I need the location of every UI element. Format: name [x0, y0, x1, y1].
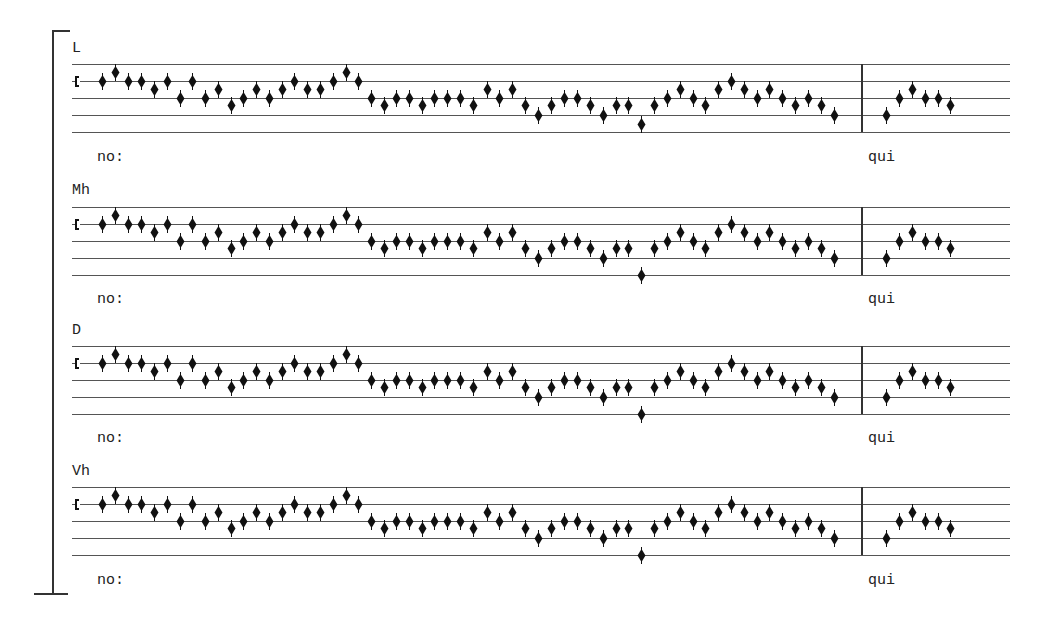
barline: [861, 64, 863, 132]
neume-diamond-icon: [495, 372, 504, 389]
voice-label: L: [72, 40, 81, 57]
neume-diamond-icon: [456, 513, 465, 530]
neume-diamond-icon: [163, 73, 172, 90]
neume-diamond-icon: [265, 233, 274, 250]
neume-diamond-icon: [727, 496, 736, 513]
neume-diamond-icon: [934, 513, 943, 530]
neume-diamond-icon: [547, 240, 556, 257]
c-clef-icon: [75, 358, 79, 369]
neume-diamond-icon: [946, 240, 955, 257]
neume-diamond-icon: [239, 513, 248, 530]
neume-diamond-icon: [714, 224, 723, 241]
neume-diamond-icon: [701, 97, 710, 114]
neume-diamond-icon: [921, 372, 930, 389]
neume-diamond-icon: [303, 224, 312, 241]
neume-diamond-icon: [214, 504, 223, 521]
staff-line: [72, 380, 1010, 381]
neume-diamond-icon: [727, 73, 736, 90]
neume-diamond-icon: [921, 233, 930, 250]
staff-line: [72, 487, 1010, 488]
neume-diamond-icon: [534, 250, 543, 267]
neume-diamond-icon: [624, 520, 633, 537]
neume-diamond-icon: [676, 224, 685, 241]
neume-diamond-icon: [701, 379, 710, 396]
neume-diamond-icon: [278, 504, 287, 521]
neume-diamond-icon: [316, 224, 325, 241]
neume-diamond-icon: [303, 363, 312, 380]
neume-diamond-icon: [560, 513, 569, 530]
neume-diamond-icon: [882, 107, 891, 124]
neume-diamond-icon: [689, 513, 698, 530]
neume-diamond-icon: [599, 530, 608, 547]
neume-diamond-icon: [290, 216, 299, 233]
neume-diamond-icon: [637, 547, 646, 564]
neume-diamond-icon: [804, 90, 813, 107]
neume-diamond-icon: [586, 97, 595, 114]
neume-diamond-icon: [418, 520, 427, 537]
neume-diamond-icon: [98, 355, 107, 372]
neume-diamond-icon: [201, 233, 210, 250]
neume-diamond-icon: [921, 513, 930, 530]
neume-diamond-icon: [714, 363, 723, 380]
neume-diamond-icon: [265, 513, 274, 530]
neume-diamond-icon: [290, 73, 299, 90]
lyric-syllable: no:: [97, 572, 124, 589]
staff-line: [72, 98, 1010, 99]
neume-diamond-icon: [443, 513, 452, 530]
staff-line: [72, 346, 1010, 347]
neume-diamond-icon: [573, 372, 582, 389]
neume-diamond-icon: [239, 233, 248, 250]
neume-diamond-icon: [830, 530, 839, 547]
neume-diamond-icon: [163, 496, 172, 513]
neume-diamond-icon: [830, 250, 839, 267]
neume-diamond-icon: [201, 90, 210, 107]
neume-diamond-icon: [111, 346, 120, 363]
barline: [861, 346, 863, 414]
neume-diamond-icon: [265, 372, 274, 389]
neume-diamond-icon: [676, 81, 685, 98]
neume-diamond-icon: [495, 513, 504, 530]
neume-diamond-icon: [380, 97, 389, 114]
neume-diamond-icon: [201, 372, 210, 389]
neume-diamond-icon: [946, 97, 955, 114]
neume-diamond-icon: [521, 379, 530, 396]
lyric-syllable: qui: [868, 291, 895, 308]
neume-diamond-icon: [418, 379, 427, 396]
neume-diamond-icon: [278, 363, 287, 380]
neume-diamond-icon: [560, 372, 569, 389]
neume-diamond-icon: [392, 372, 401, 389]
lyric-syllable: no:: [97, 149, 124, 166]
neume-diamond-icon: [534, 389, 543, 406]
neume-diamond-icon: [150, 224, 159, 241]
neume-diamond-icon: [830, 389, 839, 406]
neume-diamond-icon: [137, 216, 146, 233]
neume-diamond-icon: [817, 379, 826, 396]
neume-diamond-icon: [188, 216, 197, 233]
neume-diamond-icon: [342, 487, 351, 504]
voice-label: Mh: [72, 182, 90, 199]
neume-diamond-icon: [265, 90, 274, 107]
lyric-syllable: no:: [97, 291, 124, 308]
neume-diamond-icon: [560, 90, 569, 107]
neume-diamond-icon: [624, 97, 633, 114]
neume-diamond-icon: [405, 513, 414, 530]
neume-diamond-icon: [443, 233, 452, 250]
staff-line: [72, 64, 1010, 65]
neume-diamond-icon: [392, 513, 401, 530]
neume-diamond-icon: [946, 379, 955, 396]
neume-diamond-icon: [573, 233, 582, 250]
neume-diamond-icon: [227, 240, 236, 257]
neume-diamond-icon: [599, 107, 608, 124]
neume-diamond-icon: [804, 372, 813, 389]
barline: [861, 487, 863, 555]
neume-diamond-icon: [895, 372, 904, 389]
staff-line: [72, 132, 1010, 133]
neume-diamond-icon: [791, 97, 800, 114]
neume-diamond-icon: [111, 64, 120, 81]
neume-diamond-icon: [367, 372, 376, 389]
neume-diamond-icon: [354, 216, 363, 233]
neume-diamond-icon: [354, 496, 363, 513]
system-bracket-top: [52, 30, 70, 32]
neume-diamond-icon: [908, 504, 917, 521]
neume-diamond-icon: [176, 90, 185, 107]
